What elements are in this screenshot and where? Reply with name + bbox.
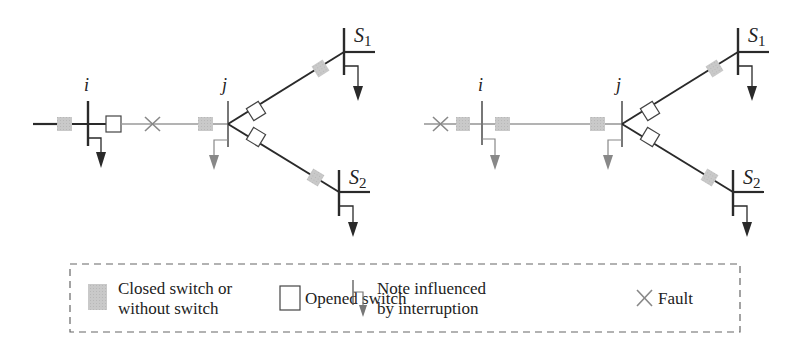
closed-switch-icon: [307, 169, 325, 187]
load-line: [738, 66, 752, 86]
closed-switch-icon: [456, 117, 470, 131]
legend: Closed switch or without switch Opened s…: [70, 264, 740, 332]
fault-icon: [637, 290, 652, 306]
interrupted-load-arrow-icon: [603, 155, 613, 170]
branch-line-s2: [622, 124, 733, 192]
bus-i-label: i: [84, 75, 89, 95]
load-line: [214, 140, 228, 155]
closed-switch-icon: [701, 169, 719, 187]
branch-line-s2: [228, 124, 339, 192]
interrupted-load-arrow-icon: [209, 155, 219, 170]
load-arrow-icon: [747, 86, 757, 101]
load-line: [344, 66, 358, 86]
legend-fault: Fault: [658, 289, 693, 308]
closed-switch-icon: [590, 117, 605, 131]
bus-i-label: i: [478, 75, 483, 95]
left-panel: i j S1: [33, 24, 375, 237]
branch-line-s1: [228, 52, 344, 124]
s2-label: S2: [743, 166, 761, 191]
opened-switch-icon: [280, 286, 300, 310]
interrupted-load-arrow-icon: [490, 155, 500, 170]
bus-j-label: j: [220, 75, 227, 95]
opened-switch-icon: [640, 101, 659, 120]
s1-label: S1: [354, 24, 372, 49]
load-line: [608, 140, 622, 155]
legend-interrupted-line1: Note influenced: [377, 279, 487, 298]
load-arrow-icon: [96, 152, 106, 168]
closed-switch-icon: [88, 284, 107, 310]
s1-label: S1: [748, 24, 766, 49]
load-line: [733, 206, 747, 222]
load-arrow-icon: [353, 86, 363, 101]
opened-switch-icon: [246, 101, 265, 120]
closed-switch-icon: [495, 117, 510, 131]
load-line: [88, 138, 101, 152]
s2-label: S2: [349, 166, 367, 191]
right-panel: i j S1 S2: [424, 24, 769, 237]
opened-switch-icon: [106, 116, 121, 132]
legend-interrupted-line2: by interruption: [377, 299, 479, 318]
load-arrow-icon: [742, 222, 752, 237]
opened-switch-icon: [246, 127, 265, 146]
load-arrow-icon: [348, 222, 358, 237]
closed-switch-icon: [57, 117, 72, 131]
opened-switch-icon: [640, 127, 659, 146]
bus-j-label: j: [614, 75, 621, 95]
network-diagram-figure: i j S1: [0, 0, 802, 352]
load-line: [482, 139, 495, 155]
legend-closed-line1: Closed switch or: [118, 279, 233, 298]
branch-line-s1: [622, 52, 738, 124]
load-line: [339, 206, 353, 222]
closed-switch-icon: [198, 117, 213, 131]
legend-closed-line2: without switch: [118, 299, 219, 318]
